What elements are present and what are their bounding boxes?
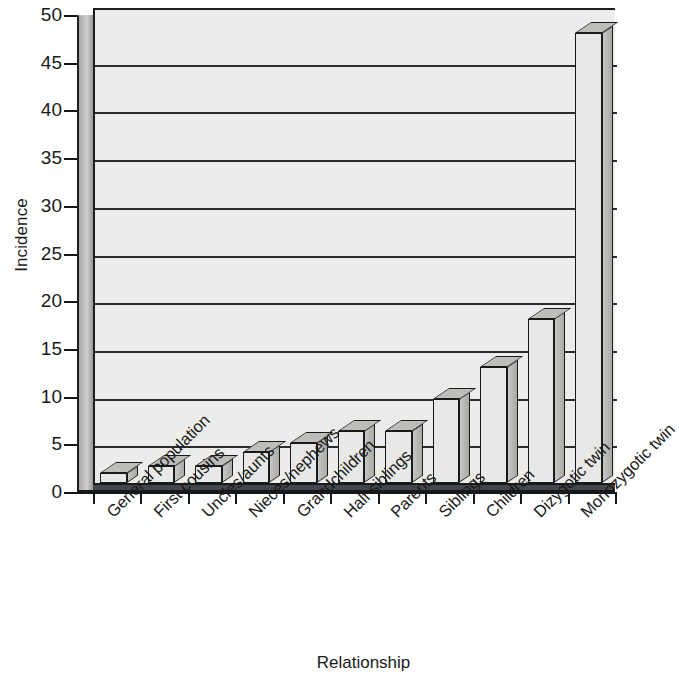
x-axis-title: Relationship: [56, 653, 671, 673]
y-tick-label: 10: [20, 387, 62, 406]
y-tick-mark: [64, 110, 77, 112]
y-tick-mark: [64, 158, 77, 160]
x-axis-line: [77, 492, 615, 494]
bar-front-face: [480, 367, 507, 483]
bar: [433, 399, 460, 483]
y-tick-mark: [64, 444, 77, 446]
bar-side-face: [602, 25, 613, 483]
y-tick-mark: [64, 349, 77, 351]
gridline: [95, 65, 617, 67]
bar-front-face: [528, 319, 555, 483]
gridline: [95, 112, 617, 114]
y-tick-label: 30: [20, 196, 62, 215]
bar: [100, 473, 127, 483]
y-tick-label: 50: [20, 5, 62, 24]
bar-side-face: [459, 392, 470, 483]
bar: [575, 33, 602, 483]
bar-front-face: [575, 33, 602, 483]
gridline: [95, 303, 617, 305]
y-tick-label: 25: [20, 244, 62, 263]
y-tick-label: 5: [20, 434, 62, 453]
bar-side-face: [507, 359, 518, 483]
y-tick-label: 15: [20, 339, 62, 358]
y-tick-mark: [64, 63, 77, 65]
bar-side-face: [554, 312, 565, 483]
y-tick-label: 0: [20, 482, 62, 501]
bar-front-face: [433, 399, 460, 483]
plot-area: [77, 8, 615, 492]
y-tick-label: 20: [20, 291, 62, 310]
y-tick-mark: [64, 15, 77, 17]
y-tick-mark: [64, 206, 77, 208]
gridline: [95, 160, 617, 162]
y-axis-ticks: 50454035302520151050: [0, 0, 62, 687]
y-tick-mark: [64, 397, 77, 399]
y-tick-label: 45: [20, 53, 62, 72]
bar: [528, 319, 555, 483]
y-tick-mark: [64, 301, 77, 303]
gridline: [95, 256, 617, 258]
x-tick-mark: [93, 492, 95, 504]
bar: [480, 367, 507, 483]
y-tick-mark: [64, 492, 77, 494]
y-tick-label: 35: [20, 148, 62, 167]
y-tick-label: 40: [20, 100, 62, 119]
bar-front-face: [100, 473, 127, 483]
gridline: [95, 208, 617, 210]
plot-wall-side-face: [77, 15, 94, 492]
y-tick-mark: [64, 254, 77, 256]
